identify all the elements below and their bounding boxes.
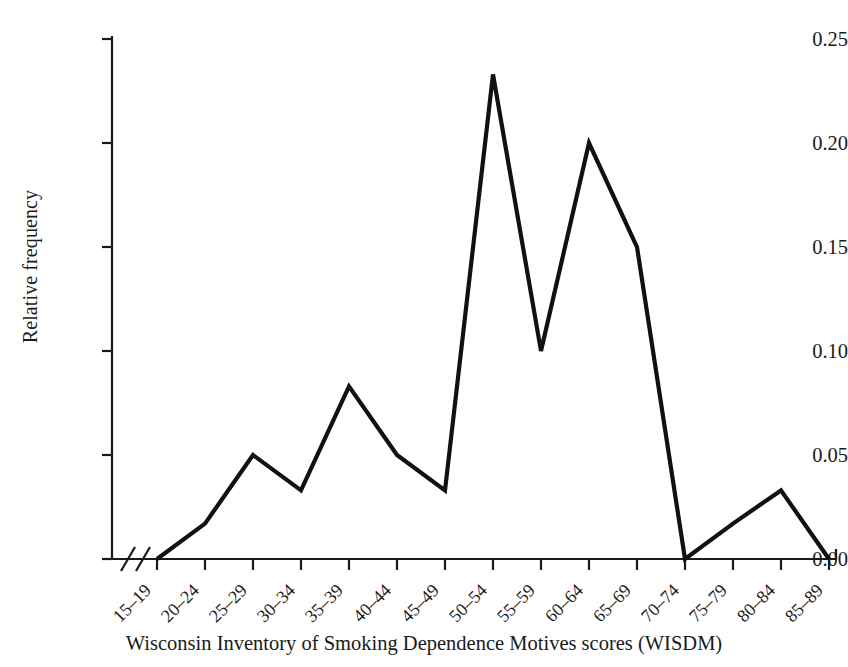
frequency-polygon-line (157, 74, 829, 559)
x-axis-ticks (157, 559, 829, 570)
relative-frequency-polygon-figure: Relative frequency 0.00 0.05 0.10 0.15 0… (0, 0, 848, 667)
plot-canvas (0, 0, 848, 667)
x-axis-label: Wisconsin Inventory of Smoking Dependenc… (0, 632, 848, 655)
